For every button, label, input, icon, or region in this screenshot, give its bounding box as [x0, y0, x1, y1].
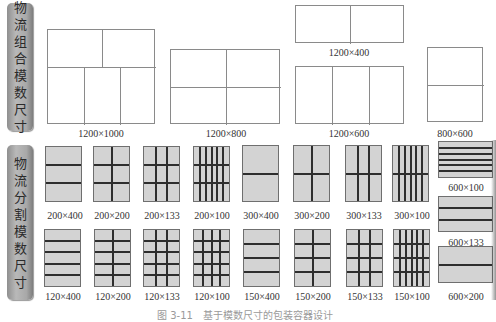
split-row-line — [439, 159, 492, 161]
split-col-line — [166, 230, 168, 286]
split-row-line — [244, 271, 279, 273]
split-col-line — [311, 146, 313, 201]
combination-module-box — [295, 5, 404, 43]
side-label-char: 流 — [14, 16, 27, 33]
side-label-char: 数 — [14, 240, 27, 257]
split-side-label: 物流分割模数尺寸 — [7, 145, 33, 300]
combination-module-label: 1200×400 — [329, 47, 370, 58]
side-label-char: 寸 — [14, 274, 27, 291]
split-module-label: 120×133 — [144, 291, 180, 302]
split-col-line — [222, 147, 224, 201]
side-label-char: 分 — [14, 189, 27, 206]
split-row-line — [439, 170, 492, 172]
module-divider-line — [84, 67, 85, 125]
split-row-line — [347, 271, 382, 273]
combination-module-box — [170, 49, 280, 124]
side-label-char: 模 — [14, 67, 27, 84]
split-col-line — [405, 230, 407, 286]
split-module-label: 150×133 — [347, 291, 383, 302]
page-edge-shadow — [491, 140, 496, 300]
split-row-line — [439, 219, 492, 221]
split-row-line — [439, 207, 492, 209]
split-module-box — [94, 229, 131, 287]
split-row-line — [46, 182, 81, 184]
split-col-line — [357, 146, 359, 201]
split-col-line — [411, 230, 413, 286]
module-divider-line — [369, 67, 370, 125]
side-label-char: 物 — [14, 0, 27, 16]
split-col-line — [205, 147, 207, 201]
split-module-label: 120×100 — [194, 291, 230, 302]
split-module-box — [346, 229, 383, 287]
module-divider-line — [120, 67, 121, 125]
module-divider-line — [102, 30, 103, 67]
combination-module-label: 1200×1000 — [78, 128, 124, 139]
split-row-line — [144, 240, 179, 242]
combination-module-label: 800×600 — [437, 128, 473, 139]
split-row-line — [144, 182, 179, 184]
split-module-label: 200×400 — [47, 210, 83, 221]
side-label-char: 模 — [14, 223, 27, 240]
split-row-line — [144, 274, 179, 276]
figure-caption: 图 3-11 基于模数尺寸的包装容器设计 — [157, 307, 333, 322]
split-module-label: 300×100 — [394, 210, 430, 221]
split-col-line — [199, 147, 201, 201]
side-label-char: 尺 — [14, 257, 27, 274]
split-col-line — [211, 147, 213, 201]
split-module-label: 600×100 — [448, 182, 484, 193]
split-module-label: 300×133 — [346, 210, 382, 221]
side-label-char: 数 — [14, 84, 27, 101]
module-divider-line — [332, 67, 333, 125]
split-row-line — [439, 164, 492, 166]
split-module-label: 200×133 — [144, 210, 180, 221]
combination-module-label: 1200×800 — [206, 128, 247, 139]
split-col-line — [155, 147, 157, 201]
split-module-box — [45, 146, 82, 202]
split-row-line — [439, 147, 492, 149]
split-row-line — [439, 153, 492, 155]
split-row-line — [244, 257, 279, 259]
combination-module-box — [295, 66, 404, 124]
split-module-box — [242, 145, 279, 202]
split-module-box — [393, 229, 430, 287]
split-module-box — [438, 141, 493, 178]
module-divider-line — [226, 50, 227, 125]
split-row-line — [346, 173, 381, 175]
split-col-line — [415, 146, 417, 201]
combination-module-label: 1200×600 — [329, 128, 370, 139]
split-row-line — [144, 251, 179, 253]
side-label-char: 物 — [14, 155, 27, 172]
split-col-line — [399, 230, 401, 286]
side-label-char: 组 — [14, 33, 27, 50]
split-module-box — [345, 145, 382, 202]
split-row-line — [244, 243, 279, 245]
split-row-line — [46, 164, 81, 166]
split-module-label: 200×100 — [194, 210, 230, 221]
split-col-line — [416, 230, 418, 286]
side-label-char: 尺 — [14, 101, 27, 118]
split-col-line — [398, 146, 400, 201]
split-col-line — [216, 147, 218, 201]
split-row-line — [45, 263, 80, 265]
split-col-line — [312, 230, 314, 286]
split-row-line — [243, 173, 278, 175]
split-module-box — [143, 146, 180, 202]
combination-module-box — [427, 47, 483, 122]
split-col-line — [155, 230, 157, 286]
module-divider-line — [48, 67, 156, 68]
split-module-box — [438, 246, 493, 283]
split-col-line — [410, 146, 412, 201]
split-module-box — [143, 229, 180, 287]
split-row-line — [45, 274, 80, 276]
split-module-label: 150×100 — [394, 291, 430, 302]
split-col-line — [211, 230, 213, 286]
split-module-box — [438, 196, 493, 232]
side-label-char: 割 — [14, 206, 27, 223]
split-module-label: 120×200 — [95, 291, 131, 302]
split-col-line — [421, 146, 423, 201]
split-row-line — [144, 263, 179, 265]
split-module-box — [193, 229, 230, 287]
side-label-char: 合 — [14, 50, 27, 67]
combination-module-box — [47, 29, 155, 124]
split-module-box — [293, 145, 330, 202]
